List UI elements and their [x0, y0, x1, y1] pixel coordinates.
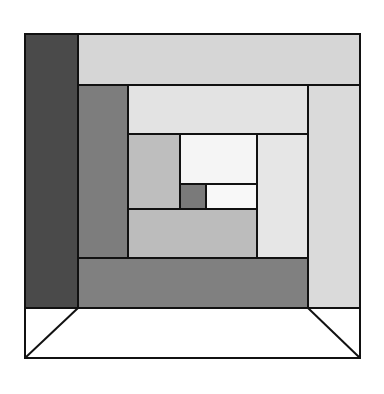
outer-left-column: [25, 34, 78, 308]
ring2-left-column: [78, 85, 128, 258]
center-white-block: [206, 184, 257, 209]
ring3-bottom-band: [128, 209, 257, 258]
outer-right-column: [308, 85, 360, 308]
ring2-top-band: [128, 85, 308, 134]
ring2-bottom-band: [78, 258, 308, 308]
perspective-tray: [25, 308, 360, 358]
nested-rectangles-diagram: [0, 0, 384, 394]
center-top-block: [180, 134, 257, 184]
outer-top-band: [78, 34, 360, 85]
block-group: [25, 34, 360, 308]
tray-base: [25, 308, 360, 358]
ring3-right-column: [257, 134, 308, 258]
ring3-left-column: [128, 134, 180, 209]
center-dark-square: [180, 184, 206, 209]
